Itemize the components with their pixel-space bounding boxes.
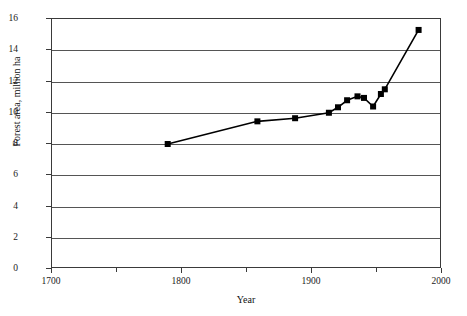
x-tick-label-2000: 2000: [432, 276, 451, 287]
x-tick-mark-1800: [181, 268, 182, 273]
x-tick-label-1800: 1800: [172, 276, 191, 287]
data-point-marker: [355, 93, 361, 99]
y-tick-label-6: 6: [13, 169, 18, 179]
y-tick-mark-4: [46, 206, 51, 207]
data-point-marker: [254, 118, 260, 124]
y-tick-label-16: 16: [9, 13, 19, 23]
x-tick-mark-1900: [311, 268, 312, 273]
x-axis-title: Year: [51, 294, 441, 305]
x-tick-mark-minor-1750: [116, 268, 117, 272]
x-tick-label-1900: 1900: [302, 276, 321, 287]
y-tick-mark-6: [46, 174, 51, 175]
x-tick-mark-minor-1850: [246, 268, 247, 272]
data-point-marker: [335, 104, 341, 110]
y-tick-label-2: 2: [13, 232, 18, 242]
data-point-marker: [326, 110, 332, 116]
data-point-marker: [344, 97, 350, 103]
y-tick-mark-8: [46, 143, 51, 144]
y-tick-mark-16: [46, 18, 51, 19]
x-tick-mark-minor-1950: [376, 268, 377, 272]
y-tick-label-4: 4: [13, 201, 18, 211]
y-tick-mark-14: [46, 49, 51, 50]
data-point-marker: [370, 104, 376, 110]
y-tick-mark-12: [46, 81, 51, 82]
data-point-marker: [382, 86, 388, 92]
y-tick-mark-10: [46, 112, 51, 113]
data-point-marker: [361, 95, 367, 101]
y-tick-mark-2: [46, 237, 51, 238]
chart-root: 0246810121416 1700180019002000 Forest ar…: [0, 0, 467, 316]
y-axis-title: Forest area, million ha: [11, 42, 22, 162]
data-point-marker: [416, 27, 422, 33]
series-line: [168, 30, 419, 144]
y-tick-label-0: 0: [13, 263, 18, 273]
x-tick-mark-1700: [51, 268, 52, 273]
plot-area: [51, 18, 441, 268]
data-point-marker: [165, 141, 171, 147]
x-tick-mark-2000: [441, 268, 442, 273]
x-tick-label-1700: 1700: [42, 276, 61, 287]
data-series-line: [52, 19, 442, 269]
data-point-marker: [292, 115, 298, 121]
